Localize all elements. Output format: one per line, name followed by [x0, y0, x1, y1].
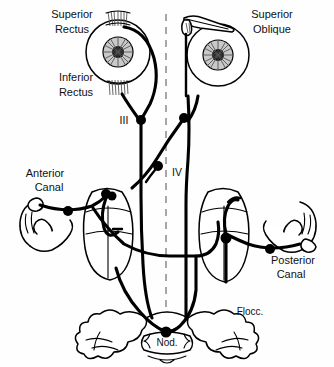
- left-vestibular-neuron-node-2: [108, 192, 117, 201]
- left-iris-striations: [103, 37, 133, 67]
- label-anterior-canal-line2: Canal: [35, 181, 64, 193]
- left-canal-afferent-node: [63, 206, 73, 216]
- vestibulo-ocular-reflex-diagram: Superior Rectus Inferior Rectus Superior…: [0, 0, 334, 367]
- diagram-canvas: Superior Rectus Inferior Rectus Superior…: [0, 0, 334, 367]
- label-flocculus: Flocc.: [237, 306, 264, 317]
- label-nodulus: Nod.: [156, 337, 177, 348]
- label-anterior-canal-line1: Anterior: [26, 167, 65, 179]
- tract-third-nerve-descending: [141, 124, 152, 318]
- label-posterior-canal-line1: Posterior: [271, 254, 315, 266]
- superior-rectus-muscle: [106, 11, 130, 26]
- inferior-rectus-muscle: [107, 80, 130, 95]
- label-fourth-nerve: IV: [172, 166, 182, 178]
- right-canal-afferent-node: [265, 244, 275, 254]
- label-superior-rectus-line2: Rectus: [55, 23, 90, 35]
- right-iris-striations: [203, 40, 233, 70]
- label-superior-rectus-line1: Superior: [51, 8, 93, 20]
- label-third-nerve: III: [120, 114, 129, 126]
- right-ampulla: [301, 239, 316, 252]
- label-inferior-rectus-line1: Inferior: [59, 71, 94, 83]
- tract-right-descending-mlf: [186, 96, 189, 318]
- label-inferior-rectus-line2: Rectus: [59, 86, 94, 98]
- right-eyeball: [187, 24, 249, 86]
- label-superior-oblique-line1: Superior: [251, 8, 293, 20]
- left-eyeball: [86, 20, 150, 84]
- label-posterior-canal-line2: Canal: [277, 268, 306, 280]
- label-superior-oblique-line2: Oblique: [253, 23, 291, 35]
